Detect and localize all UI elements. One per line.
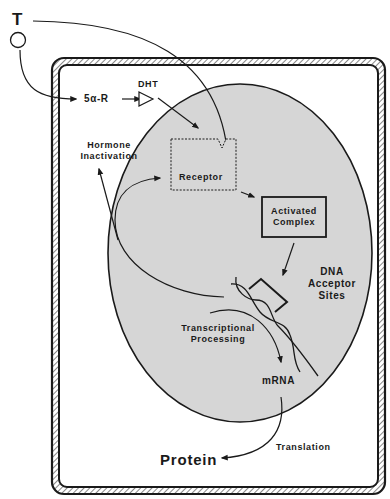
activated-complex-line2: Complex: [262, 217, 326, 228]
dna-line1: DNA: [302, 266, 362, 278]
translation-label: Translation: [276, 442, 331, 453]
dht-label: DHT: [138, 79, 158, 90]
activated-complex-label: Activated Complex: [262, 206, 326, 228]
transcription-line1: Transcriptional: [174, 323, 262, 334]
enzyme-5ar-label: 5α-R: [84, 93, 109, 105]
dna-acceptor-label: DNA Acceptor Sites: [302, 266, 362, 302]
testosterone-circle-icon: [11, 33, 26, 48]
hormone-inactivation-label: Hormone Inactivation: [66, 140, 152, 162]
dna-line2: Acceptor: [302, 278, 362, 290]
hormone-inactivation-line2: Inactivation: [66, 151, 152, 162]
transcription-label: Transcriptional Processing: [174, 323, 262, 345]
hormone-inactivation-line1: Hormone: [66, 140, 152, 151]
activated-complex-line1: Activated: [262, 206, 326, 217]
protein-label: Protein: [160, 451, 217, 469]
dna-line3: Sites: [302, 290, 362, 302]
transcription-line2: Processing: [174, 334, 262, 345]
hormone-t-label: T: [12, 10, 22, 30]
receptor-label: Receptor: [179, 172, 223, 183]
mrna-label: mRNA: [262, 375, 295, 387]
cell-diagram: [0, 0, 390, 499]
nucleus: [108, 84, 372, 422]
